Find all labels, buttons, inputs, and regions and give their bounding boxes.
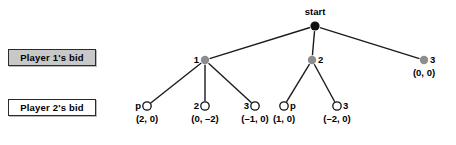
payoff-p2-bid-3b: (–2, 0) (311, 114, 363, 124)
node-label-p2-pass-a: p (125, 101, 141, 111)
tree-edge (151, 63, 201, 103)
tree-edge (209, 63, 252, 103)
node-label-p2-bid-2a: 2 (183, 101, 199, 111)
node-label-p2-pass-b: p (290, 101, 306, 111)
root-node-start[interactable] (310, 21, 319, 30)
tree-edge (286, 64, 309, 102)
row-label-player-2-bid: Player 2's bid (8, 99, 96, 116)
node-label-p2-bid-3a: 3 (233, 101, 249, 111)
root-node-label: start (285, 6, 345, 17)
payoff-p2-pass-a: (2, 0) (121, 114, 173, 124)
decision-node-p1-bid-3[interactable] (420, 56, 428, 64)
tree-edge (210, 28, 310, 59)
edge-group (151, 28, 420, 103)
node-label-p2-bid-3b: 3 (343, 101, 359, 111)
payoff-p2-bid-2a: (0, –2) (179, 114, 231, 124)
decision-node-p1-bid-2[interactable] (308, 56, 316, 64)
terminal-node-p2-bid-2a[interactable] (201, 102, 209, 110)
node-label-p1-bid-1: 1 (183, 55, 199, 65)
payoff-p1-bid-3: (0, 0) (398, 68, 450, 78)
payoff-p2-pass-b: (1, 0) (258, 114, 310, 124)
terminal-node-p2-pass-a[interactable] (143, 102, 151, 110)
tree-edge (312, 31, 314, 55)
tree-edge (314, 64, 334, 102)
terminal-node-p2-pass-b[interactable] (280, 102, 288, 110)
row-label-player-1-bid: Player 1's bid (8, 49, 96, 66)
terminal-node-p2-bid-3a[interactable] (251, 102, 259, 110)
game-tree-figure: Player 1's bid Player 2's bid start 123(… (0, 0, 456, 145)
decision-node-p1-bid-1[interactable] (201, 56, 209, 64)
terminal-node-p2-bid-3b[interactable] (333, 102, 341, 110)
tree-edge (320, 28, 419, 59)
node-label-p1-bid-3: 3 (430, 55, 446, 65)
node-label-p1-bid-2: 2 (318, 55, 334, 65)
